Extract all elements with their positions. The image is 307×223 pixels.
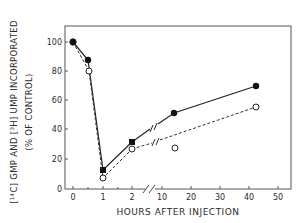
y-tick-label: 40 bbox=[52, 125, 62, 134]
y-tick-label: 100 bbox=[47, 38, 62, 47]
data-point-filled bbox=[253, 83, 259, 89]
data-point-open bbox=[100, 175, 106, 181]
series-filled bbox=[73, 42, 259, 173]
data-point-open bbox=[253, 104, 259, 110]
y-tick-label: 60 bbox=[52, 96, 62, 105]
data-point-filled bbox=[171, 110, 177, 116]
data-point-filled bbox=[85, 57, 91, 63]
x-tick-label: 50 bbox=[273, 193, 283, 202]
data-point-filled bbox=[100, 167, 106, 173]
y-tick-labels: 100 80 60 40 20 0 bbox=[47, 38, 62, 194]
chart: 100 80 60 40 20 0 0 1 2 10 20 30 40 50 H… bbox=[0, 0, 307, 223]
x-tick-label: 1 bbox=[100, 193, 105, 202]
y-tick-label: 20 bbox=[52, 155, 62, 164]
x-tick-label: 10 bbox=[157, 193, 167, 202]
data-point-open bbox=[129, 146, 135, 152]
svg-text:(% OF CONTROL): (% OF CONTROL) bbox=[24, 73, 34, 150]
y-tick-label: 0 bbox=[57, 185, 62, 194]
y-axis-subtitle: (% OF CONTROL) bbox=[24, 73, 34, 150]
x-axis-title: HOURS AFTER INJECTION bbox=[116, 207, 239, 217]
y-axis-title: [14C] GMP AND [3H] UMP INCORPORATED bbox=[9, 20, 19, 204]
svg-text:[14C] GMP AND [3H] UMP INCORPO: [14C] GMP AND [3H] UMP INCORPORATED bbox=[9, 20, 19, 204]
data-point-open bbox=[86, 68, 92, 74]
x-tick-label: 20 bbox=[186, 193, 196, 202]
x-tick-label: 0 bbox=[70, 193, 75, 202]
x-tick-label: 40 bbox=[244, 193, 254, 202]
data-point-filled bbox=[129, 139, 135, 145]
x-tick-label: 2 bbox=[129, 193, 134, 202]
series-open bbox=[73, 42, 259, 181]
x-tick-label: 30 bbox=[215, 193, 225, 202]
y-tick-label: 80 bbox=[52, 67, 62, 76]
x-tick-labels: 0 1 2 10 20 30 40 50 bbox=[70, 193, 283, 202]
data-point-open bbox=[172, 145, 178, 151]
